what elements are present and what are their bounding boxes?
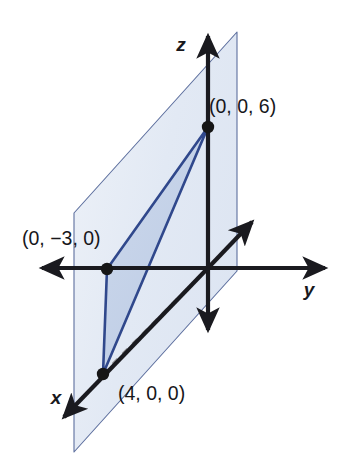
point-y-intercept <box>101 263 113 275</box>
coordinate-plane-figure: x y z (0, 0, 6) (0, −3, 0) (4, 0, 0) <box>0 0 344 465</box>
figure-root: x y z (0, 0, 6) (0, −3, 0) (4, 0, 0) <box>0 0 344 465</box>
point-label-z-intercept: (0, 0, 6) <box>209 95 276 117</box>
point-label-y-intercept: (0, −3, 0) <box>22 227 101 249</box>
axis-label-x: x <box>50 387 63 408</box>
axis-label-y: y <box>303 279 316 300</box>
point-label-x-intercept: (4, 0, 0) <box>118 382 185 404</box>
axis-label-z: z <box>175 34 186 55</box>
point-z-intercept <box>202 121 214 133</box>
point-x-intercept <box>97 368 109 380</box>
